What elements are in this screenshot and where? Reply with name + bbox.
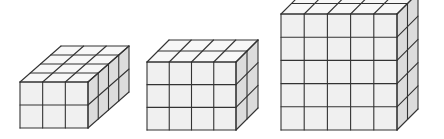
diagram-svg bbox=[0, 0, 444, 139]
prism-5x5x2 bbox=[281, 0, 418, 130]
prism-4x3x2 bbox=[147, 40, 258, 130]
prism-3x2x4 bbox=[20, 46, 129, 128]
cube-prisms-diagram bbox=[0, 0, 444, 139]
front-face bbox=[281, 14, 397, 130]
top-face bbox=[281, 0, 418, 14]
